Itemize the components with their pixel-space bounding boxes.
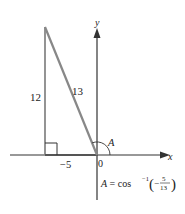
formula-lhs: A = cos [100,178,131,189]
x-axis-label: x [167,151,173,162]
vertical-leg-label: 12 [30,91,41,103]
formula-denominator: 13 [160,184,168,192]
formula-numerator: 5 [162,175,166,183]
y-axis-arrow-icon [94,28,101,38]
formula-close-paren: ) [171,176,176,193]
right-angle-marker [45,143,57,155]
angle-label: A [107,137,115,148]
reference-angle-diagram: 12 13 −5 A 0 x y A = cos −1 ( − 5 13 ) [0,0,185,214]
y-axis-label: y [94,17,100,28]
formula: A = cos −1 ( − 5 13 ) [100,175,176,193]
formula-exponent: −1 [142,175,149,182]
formula-sign: − [154,178,159,188]
hypotenuse-label: 13 [72,85,84,97]
hypotenuse [45,27,97,155]
origin-label: 0 [98,158,103,169]
horizontal-leg-label: −5 [60,159,71,170]
